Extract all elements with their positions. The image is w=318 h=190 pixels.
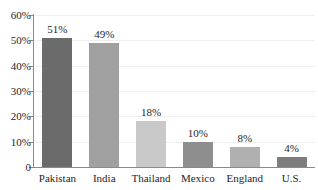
x-axis-category-label: U.S. — [262, 172, 318, 184]
bar — [277, 157, 307, 167]
y-axis-tick-label: 10% — [11, 137, 31, 148]
bar — [183, 142, 213, 167]
gridline — [34, 66, 315, 67]
bar — [136, 121, 166, 167]
gridline — [34, 15, 315, 16]
y-axis-tick-label: 30% — [11, 86, 31, 97]
gridline — [34, 40, 315, 41]
bar-value-label: 51% — [32, 24, 82, 35]
y-axis-tick-label: 60% — [11, 10, 31, 21]
bar — [89, 43, 119, 167]
y-axis-tick-label: 50% — [11, 35, 31, 46]
bar — [42, 38, 72, 167]
bar-value-label: 4% — [267, 143, 317, 154]
bar-value-label: 49% — [79, 29, 129, 40]
y-axis-line — [33, 14, 34, 168]
y-axis-tick-label: 40% — [11, 61, 31, 72]
bar-value-label: 18% — [126, 107, 176, 118]
x-axis-line — [33, 167, 315, 168]
y-axis-tick-label: 20% — [11, 111, 31, 122]
bar-value-label: 8% — [220, 133, 270, 144]
bar — [230, 147, 260, 167]
gridline — [34, 91, 315, 92]
bar-chart: 60%50%40%30%20%10%0 51%49%18%10%8%4% Pak… — [0, 0, 318, 190]
bar-value-label: 10% — [173, 128, 223, 139]
